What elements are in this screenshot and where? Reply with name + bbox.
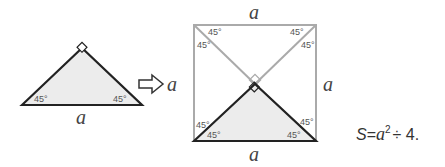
angle-top-left-b: 45° [197,40,211,50]
angle-label-right: 45° [113,94,127,104]
square-figure: 45° 45° 45° 45° 45° 45° 45° 45° a a a [194,1,333,165]
left-triangle: 45° 45° a [22,42,142,128]
square-right-label: a [323,73,333,95]
square-bottom-label: a [249,143,259,165]
formula-a: a [376,124,385,144]
square-top-label: a [249,1,259,23]
angle-bottom-left-b: 45° [207,130,221,140]
formula-text: S=a2÷ 4. [356,124,419,144]
angle-bottom-right-a: 45° [300,117,314,127]
angle-label-left: 45° [34,94,48,104]
diagram-canvas: 45° 45° a a 45° 45° 45° 45° 45° 45° 45° … [0,0,445,167]
formula-exponent: 2 [385,124,391,135]
right-arrow-icon [139,75,163,93]
angle-top-left-a: 45° [208,27,222,37]
square-left-label: a [167,73,177,95]
formula-rest: ÷ 4. [393,126,420,143]
angle-top-right-b: 45° [301,40,315,50]
area-formula: S=a2÷ 4. [356,124,419,144]
base-label: a [76,106,86,128]
angle-bottom-right-b: 45° [287,130,301,140]
formula-eq: = [367,126,376,143]
angle-bottom-left-a: 45° [196,120,210,130]
formula-s: S [356,126,367,143]
angle-top-right-a: 45° [290,27,304,37]
